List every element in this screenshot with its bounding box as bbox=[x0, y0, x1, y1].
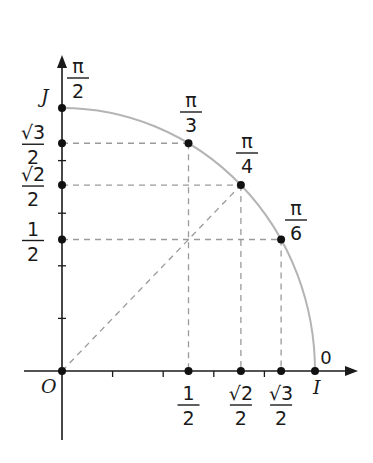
point-x-pi-over-6 bbox=[277, 367, 285, 375]
x-label-one-half-numerator: 1 bbox=[182, 382, 194, 404]
point-pi-over-2 bbox=[58, 104, 66, 112]
angle-label-pi-over-3-numerator: π bbox=[185, 89, 196, 111]
y-axis-arrow-icon bbox=[57, 55, 67, 68]
y-label-sqrt2-over-2: √22 bbox=[21, 163, 45, 210]
angle-label-pi-over-6: π6 bbox=[285, 197, 307, 244]
x-label-sqrt3-over-2-numerator: √3 bbox=[269, 382, 293, 404]
angle-label-pi-over-2: π2 bbox=[67, 55, 89, 102]
x-label-one-half-denominator: 2 bbox=[182, 407, 194, 429]
y-label-sqrt3-over-2-numerator: √3 bbox=[21, 121, 45, 143]
y-label-sqrt3-over-2: √32 bbox=[21, 121, 45, 168]
point-y-pi-over-6 bbox=[58, 236, 66, 244]
point-y-pi-over-4 bbox=[58, 181, 66, 189]
angle-label-zero: 0 bbox=[320, 347, 331, 368]
point-pi-over-4 bbox=[237, 181, 245, 189]
angle-label-pi-over-4: π4 bbox=[236, 130, 258, 177]
point-zero bbox=[311, 367, 319, 375]
projection-lines bbox=[62, 143, 281, 371]
y-label-sqrt2-over-2-denominator: 2 bbox=[27, 188, 39, 210]
labels: π2π3π4π6012√22√32√32√2212OIJ bbox=[21, 55, 332, 429]
x-label-sqrt2-over-2-denominator: 2 bbox=[235, 407, 247, 429]
angle-label-pi-over-6-denominator: 6 bbox=[290, 222, 302, 244]
point-x-pi-over-3 bbox=[185, 367, 193, 375]
y-label-one-half-numerator: 1 bbox=[27, 218, 39, 240]
angle-label-pi-over-2-numerator: π bbox=[72, 55, 83, 77]
point-pi-over-3 bbox=[185, 139, 193, 147]
y-label-sqrt2-over-2-numerator: √2 bbox=[21, 163, 45, 185]
x-label-sqrt2-over-2: √22 bbox=[229, 382, 253, 429]
x-label-sqrt3-over-2: √32 bbox=[269, 382, 293, 429]
point-j-label: J bbox=[37, 85, 50, 107]
angle-label-pi-over-6-numerator: π bbox=[290, 197, 301, 219]
unit-circle-diagram: π2π3π4π6012√22√32√32√2212OIJ bbox=[0, 0, 373, 463]
angle-label-pi-over-2-denominator: 2 bbox=[72, 80, 84, 102]
point-x-pi-over-4 bbox=[237, 367, 245, 375]
angle-label-pi-over-3-denominator: 3 bbox=[185, 114, 197, 136]
y-label-one-half: 12 bbox=[22, 218, 44, 265]
x-label-sqrt2-over-2-numerator: √2 bbox=[229, 382, 253, 404]
point-i-label: I bbox=[312, 376, 321, 398]
point-origin bbox=[58, 367, 66, 375]
diagonal-bisector bbox=[62, 185, 241, 371]
angle-label-pi-over-4-denominator: 4 bbox=[241, 155, 253, 177]
x-label-sqrt3-over-2-denominator: 2 bbox=[275, 407, 287, 429]
point-y-pi-over-3 bbox=[58, 139, 66, 147]
x-label-one-half: 12 bbox=[178, 382, 200, 429]
diagram-canvas: π2π3π4π6012√22√32√32√2212OIJ bbox=[0, 0, 373, 463]
origin-label: O bbox=[41, 375, 57, 397]
x-axis-arrow-icon bbox=[345, 366, 358, 376]
point-pi-over-6 bbox=[277, 236, 285, 244]
angle-label-pi-over-4-numerator: π bbox=[241, 130, 252, 152]
angle-label-pi-over-3: π3 bbox=[180, 89, 202, 136]
y-label-one-half-denominator: 2 bbox=[27, 243, 39, 265]
